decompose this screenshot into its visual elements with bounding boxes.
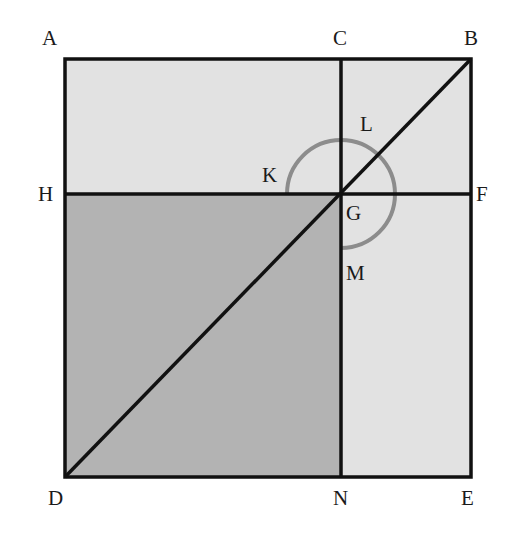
label-h: H [38,182,53,206]
label-f: F [476,182,488,206]
label-l: L [360,112,373,136]
label-b: B [464,26,478,50]
label-n: N [333,486,348,510]
label-m: M [346,261,365,285]
label-d: D [48,486,63,510]
geometry-diagram: A C B H F K L G M D N E [0,0,516,547]
label-k: K [262,163,277,187]
label-e: E [461,486,474,510]
label-c: C [333,26,347,50]
label-a: A [42,26,58,50]
label-g: G [346,201,361,225]
